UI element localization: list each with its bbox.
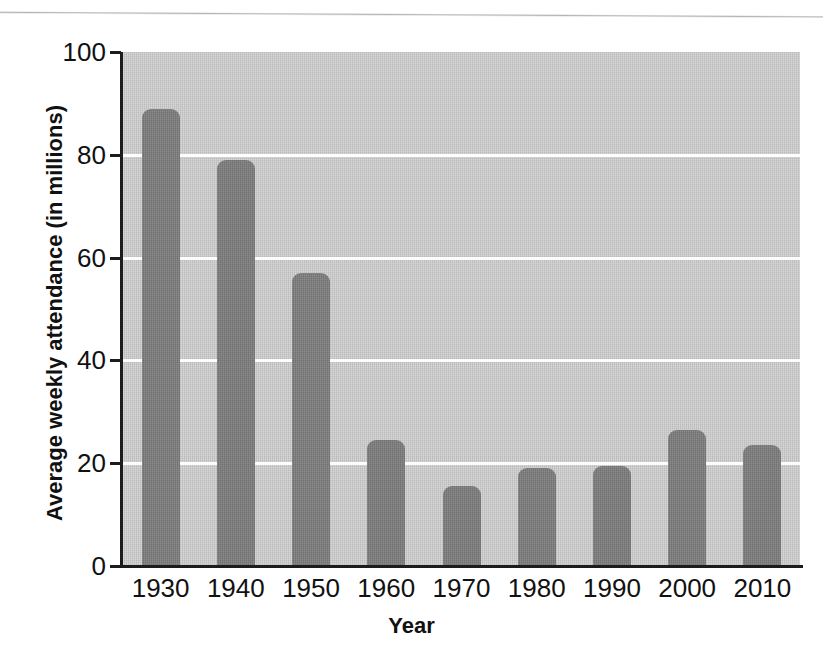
y-axis-tick bbox=[110, 462, 121, 465]
scan-artifact-line bbox=[0, 11, 823, 19]
bar bbox=[443, 486, 481, 566]
y-axis-tick bbox=[110, 51, 121, 54]
bar bbox=[292, 273, 330, 566]
bar-texture bbox=[518, 468, 556, 566]
bar bbox=[743, 445, 781, 566]
bar bbox=[668, 430, 706, 566]
bar-texture bbox=[367, 440, 405, 566]
y-axis-tick bbox=[110, 154, 121, 157]
bar-texture bbox=[443, 486, 481, 566]
bar bbox=[593, 466, 631, 566]
y-axis-tick bbox=[110, 359, 121, 362]
bar-texture bbox=[668, 430, 706, 566]
bar bbox=[217, 160, 255, 566]
bar-texture bbox=[217, 160, 255, 566]
bar-texture bbox=[593, 466, 631, 566]
gridline bbox=[123, 154, 800, 157]
plot-area bbox=[123, 52, 800, 566]
y-axis-tick bbox=[110, 565, 121, 568]
y-axis-tick bbox=[110, 257, 121, 260]
bar bbox=[367, 440, 405, 566]
y-axis-title: Average weekly attendance (in millions) bbox=[42, 53, 68, 573]
bar-texture bbox=[292, 273, 330, 566]
y-axis-line bbox=[120, 52, 123, 568]
x-axis-tick-label: 2010 bbox=[712, 575, 812, 601]
bar bbox=[142, 109, 180, 566]
bar bbox=[518, 468, 556, 566]
bar-texture bbox=[743, 445, 781, 566]
bar-texture bbox=[142, 109, 180, 566]
x-axis-title: Year bbox=[0, 613, 823, 639]
bar-chart-figure: 020406080100 193019401950196019701980199… bbox=[0, 0, 823, 662]
x-axis-line bbox=[120, 565, 803, 568]
